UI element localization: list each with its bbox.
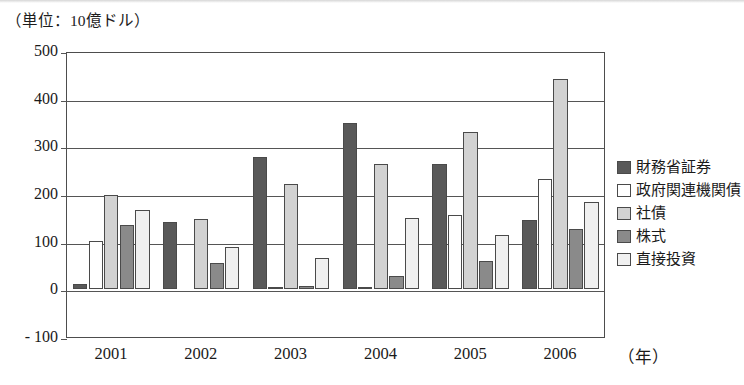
bar-2001-series-3 xyxy=(120,225,134,289)
chart-legend: 財務省証券政府関連機関債社債株式直接投資 xyxy=(617,156,741,271)
y-axis-tick-label: 300 xyxy=(0,137,62,155)
bar-2001-series-1 xyxy=(89,241,103,290)
x-axis-tick-label-2004: 2004 xyxy=(336,344,426,364)
legend-item-1: 政府関連機関債 xyxy=(617,179,741,202)
bar-2005-series-2 xyxy=(463,132,477,290)
legend-item-label: 社債 xyxy=(636,206,666,221)
bar-2004-series-1 xyxy=(358,287,372,289)
bar-2001-series-4 xyxy=(135,210,149,290)
y-axis-tick-label: 100 xyxy=(0,233,62,251)
y-axis-tick-label: 400 xyxy=(0,90,62,108)
bar-2002-series-4 xyxy=(225,247,239,289)
legend-item-3: 株式 xyxy=(617,225,741,248)
x-axis-tick-label-2006: 2006 xyxy=(515,344,605,364)
bar-2002-series-3 xyxy=(210,263,224,289)
bar-2003-series-2 xyxy=(284,184,298,290)
legend-item-label: 株式 xyxy=(636,229,666,244)
legend-swatch-icon xyxy=(617,207,631,220)
legend-item-label: 財務省証券 xyxy=(636,160,711,175)
legend-item-label: 政府関連機関債 xyxy=(636,183,741,198)
y-axis-tick-label: - 100 xyxy=(0,328,62,346)
bar-2001-series-2 xyxy=(104,195,118,289)
bar-2006-series-3 xyxy=(569,229,583,290)
legend-item-4: 直接投資 xyxy=(617,248,741,271)
chart-plot-area xyxy=(66,52,605,338)
bar-2006-series-2 xyxy=(553,79,567,290)
bar-2003-series-0 xyxy=(253,157,267,290)
y-axis-tick xyxy=(61,339,67,340)
scan-artifact-line xyxy=(0,0,744,3)
bar-2005-series-0 xyxy=(432,164,446,289)
bar-2003-series-4 xyxy=(315,258,329,289)
legend-item-2: 社債 xyxy=(617,202,741,225)
bar-2005-series-4 xyxy=(495,235,509,289)
bar-2004-series-4 xyxy=(405,218,419,290)
y-axis-tick-label: 200 xyxy=(0,185,62,203)
y-axis-tick-labels: 5004003002001000- 100 xyxy=(0,0,62,385)
x-axis-tick-label-2003: 2003 xyxy=(246,344,336,364)
x-axis-tick-label-2001: 2001 xyxy=(66,344,156,364)
bar-2002-series-2 xyxy=(194,219,208,290)
bar-2006-series-4 xyxy=(584,202,598,290)
bar-2003-series-3 xyxy=(299,286,313,290)
bar-2006-series-1 xyxy=(538,179,552,290)
bar-2004-series-2 xyxy=(374,164,388,289)
bar-2003-series-1 xyxy=(268,287,282,289)
x-axis-tick-label-2002: 2002 xyxy=(156,344,246,364)
bar-2005-series-3 xyxy=(479,261,493,290)
y-axis-tick-label: 500 xyxy=(0,42,62,60)
bar-series-layer xyxy=(67,53,604,337)
bar-2001-series-0 xyxy=(73,284,87,289)
bar-2006-series-0 xyxy=(522,220,536,289)
legend-item-0: 財務省証券 xyxy=(617,156,741,179)
legend-swatch-icon xyxy=(617,253,631,266)
x-axis-tick-label-2005: 2005 xyxy=(425,344,515,364)
x-axis-unit-label: （年） xyxy=(618,344,669,368)
legend-item-label: 直接投資 xyxy=(636,252,696,267)
y-axis-tick-label: 0 xyxy=(0,280,62,298)
legend-swatch-icon xyxy=(617,184,631,197)
legend-swatch-icon xyxy=(617,161,631,174)
bar-2005-series-1 xyxy=(448,215,462,289)
bar-2004-series-3 xyxy=(389,276,403,289)
bar-2004-series-0 xyxy=(343,123,357,289)
legend-swatch-icon xyxy=(617,230,631,243)
bar-2002-series-0 xyxy=(163,222,177,289)
